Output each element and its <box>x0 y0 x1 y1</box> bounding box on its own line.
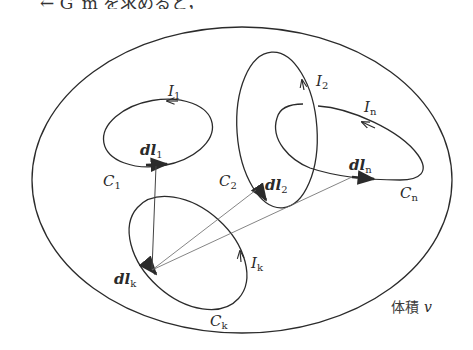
label-dl2: dl2 <box>265 176 288 195</box>
magnetic-circuits-diagram: I1 dl1 C1 I2 C2 dl2 In dln Cn Ik dlk Ck … <box>0 0 473 350</box>
label-ik: Ik <box>250 254 264 273</box>
line-dlk-to-dl1 <box>152 166 156 270</box>
label-c1: C1 <box>103 172 121 191</box>
label-dl1: dl1 <box>140 141 163 160</box>
label-i2: I2 <box>315 72 328 91</box>
c1-element-arrow-icon <box>146 164 167 165</box>
label-i1: I1 <box>167 82 180 101</box>
labels: I1 dl1 C1 I2 C2 dl2 In dln Cn Ik dlk Ck … <box>103 72 432 331</box>
cn-current-arrow-icon <box>362 122 375 128</box>
label-dlk: dlk <box>114 270 137 289</box>
ck-current-arrow-icon <box>240 251 241 262</box>
label-dln: dln <box>349 156 372 175</box>
cn-element-arrow-icon <box>352 177 374 179</box>
label-volume: 体積 <box>391 299 419 315</box>
c2-current-arrow-icon <box>302 80 304 90</box>
label-cn: Cn <box>400 184 418 203</box>
circuit-c1 <box>98 91 218 175</box>
label-in: In <box>363 98 377 117</box>
label-volume-var: v <box>424 299 432 315</box>
label-c2: C2 <box>219 172 237 191</box>
c1-loop <box>98 91 218 175</box>
label-ck: Ck <box>210 312 228 331</box>
